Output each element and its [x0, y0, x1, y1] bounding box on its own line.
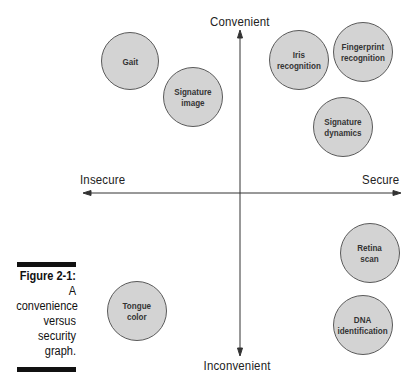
bubble-label: Fingerprint recognition — [341, 41, 385, 63]
caption-bottom-rule — [17, 367, 76, 372]
bubble-label: Tongue color — [123, 300, 152, 322]
bubble-signature-dynamics: Signature dynamics — [313, 97, 373, 157]
caption-line: convenience — [16, 299, 76, 314]
bubble-label: Retina scan — [358, 242, 383, 264]
arrow-up-icon — [238, 30, 243, 38]
bubble-iris-recognition: Iris recognition — [269, 30, 329, 90]
bubble-label: Signature image — [174, 86, 211, 108]
axis-label-convenient: Convenient — [210, 14, 270, 29]
caption-line: A — [16, 284, 76, 299]
bubble-signature-image: Signature image — [163, 67, 223, 127]
figure-caption: Figure 2-1: A convenience versus securit… — [8, 269, 76, 359]
caption-line: graph. — [16, 344, 76, 359]
caption-line: security — [16, 329, 76, 344]
bubble-label: DNA identification — [338, 314, 388, 336]
convenience-security-diagram: Convenient Inconvenient Insecure Secure … — [0, 0, 416, 388]
bubble-dna-identification: DNA identification — [333, 295, 393, 355]
bubble-tongue-color: Tongue color — [107, 281, 167, 341]
bubble-label: Gait — [122, 56, 138, 67]
bubble-label: Iris recognition — [277, 49, 321, 71]
axis-label-inconvenient: Inconvenient — [204, 358, 271, 373]
bubble-label: Signature dynamics — [324, 116, 361, 138]
caption-line: versus — [16, 314, 76, 329]
bubble-gait: Gait — [101, 32, 159, 90]
arrow-down-icon — [238, 348, 243, 356]
arrow-right-icon — [393, 191, 401, 196]
axis-label-secure: Secure — [362, 172, 399, 187]
bubble-retina-scan: Retina scan — [340, 223, 400, 283]
caption-title: Figure 2-1: — [16, 269, 76, 284]
axis-label-insecure: Insecure — [80, 172, 125, 187]
caption-top-rule — [17, 262, 76, 267]
bubble-fingerprint-recognition: Fingerprint recognition — [333, 22, 393, 82]
arrow-left-icon — [83, 191, 91, 196]
